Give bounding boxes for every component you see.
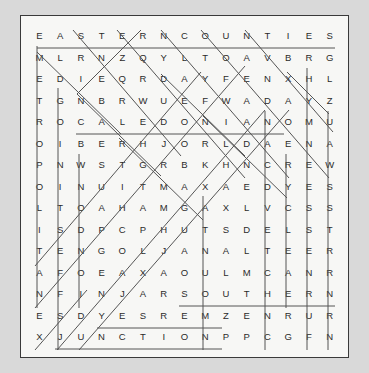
grid-cell[interactable]: N: [70, 90, 91, 112]
grid-cell[interactable]: E: [50, 240, 71, 262]
grid-cell[interactable]: S: [70, 25, 91, 47]
grid-cell[interactable]: S: [216, 219, 237, 241]
grid-cell[interactable]: E: [91, 262, 112, 284]
grid-cell[interactable]: U: [153, 90, 174, 112]
grid-cell[interactable]: N: [70, 240, 91, 262]
grid-cell[interactable]: L: [133, 240, 154, 262]
grid-cell[interactable]: S: [299, 197, 320, 219]
grid-cell[interactable]: H: [112, 197, 133, 219]
grid-cell[interactable]: E: [299, 240, 320, 262]
grid-cell[interactable]: W: [216, 90, 237, 112]
grid-cell[interactable]: S: [50, 305, 71, 327]
grid-cell[interactable]: I: [153, 326, 174, 348]
grid-cell[interactable]: M: [29, 47, 50, 69]
grid-cell[interactable]: N: [236, 154, 257, 176]
grid-cell[interactable]: R: [133, 25, 154, 47]
grid-cell[interactable]: F: [195, 90, 216, 112]
grid-cell[interactable]: E: [112, 305, 133, 327]
grid-cell[interactable]: C: [257, 262, 278, 284]
grid-cell[interactable]: N: [91, 326, 112, 348]
grid-cell[interactable]: E: [257, 219, 278, 241]
grid-cell[interactable]: W: [319, 154, 340, 176]
grid-cell[interactable]: L: [112, 111, 133, 133]
grid-cell[interactable]: G: [319, 47, 340, 69]
grid-cell[interactable]: R: [278, 305, 299, 327]
grid-cell[interactable]: A: [91, 197, 112, 219]
grid-cell[interactable]: D: [236, 219, 257, 241]
grid-cell[interactable]: C: [70, 111, 91, 133]
grid-cell[interactable]: E: [299, 154, 320, 176]
grid-cell[interactable]: E: [299, 176, 320, 198]
grid-cell[interactable]: N: [299, 262, 320, 284]
grid-cell[interactable]: N: [299, 133, 320, 155]
grid-cell[interactable]: R: [29, 111, 50, 133]
grid-cell[interactable]: T: [29, 240, 50, 262]
grid-cell[interactable]: C: [278, 197, 299, 219]
grid-cell[interactable]: H: [133, 133, 154, 155]
grid-cell[interactable]: O: [195, 283, 216, 305]
grid-cell[interactable]: E: [29, 305, 50, 327]
grid-cell[interactable]: I: [50, 176, 71, 198]
grid-cell[interactable]: R: [70, 47, 91, 69]
grid-cell[interactable]: T: [91, 25, 112, 47]
grid-cell[interactable]: J: [153, 240, 174, 262]
grid-cell[interactable]: C: [174, 25, 195, 47]
grid-cell[interactable]: G: [50, 90, 71, 112]
grid-cell[interactable]: L: [29, 197, 50, 219]
grid-cell[interactable]: Q: [112, 68, 133, 90]
grid-cell[interactable]: Y: [153, 47, 174, 69]
grid-cell[interactable]: M: [236, 262, 257, 284]
grid-cell[interactable]: I: [70, 283, 91, 305]
grid-cell[interactable]: R: [299, 47, 320, 69]
grid-cell[interactable]: A: [236, 90, 257, 112]
grid-cell[interactable]: O: [112, 240, 133, 262]
grid-cell[interactable]: N: [319, 283, 340, 305]
grid-cell[interactable]: Z: [319, 90, 340, 112]
grid-cell[interactable]: E: [299, 25, 320, 47]
grid-cell[interactable]: B: [91, 90, 112, 112]
grid-cell[interactable]: T: [195, 47, 216, 69]
grid-cell[interactable]: H: [299, 68, 320, 90]
grid-cell[interactable]: A: [133, 197, 154, 219]
grid-cell[interactable]: E: [236, 305, 257, 327]
grid-cell[interactable]: A: [174, 176, 195, 198]
grid-cell[interactable]: I: [70, 68, 91, 90]
grid-cell[interactable]: T: [133, 326, 154, 348]
grid-cell[interactable]: R: [112, 90, 133, 112]
grid-cell[interactable]: D: [257, 90, 278, 112]
grid-cell[interactable]: H: [153, 219, 174, 241]
grid-cell[interactable]: A: [91, 111, 112, 133]
grid-cell[interactable]: X: [278, 68, 299, 90]
grid-cell[interactable]: B: [278, 47, 299, 69]
grid-cell[interactable]: D: [70, 305, 91, 327]
grid-cell[interactable]: M: [153, 176, 174, 198]
grid-cell[interactable]: G: [91, 240, 112, 262]
grid-cell[interactable]: I: [50, 133, 71, 155]
grid-cell[interactable]: R: [278, 154, 299, 176]
grid-cell[interactable]: P: [236, 326, 257, 348]
grid-cell[interactable]: J: [50, 326, 71, 348]
grid-cell[interactable]: S: [174, 283, 195, 305]
grid-cell[interactable]: L: [216, 262, 237, 284]
grid-cell[interactable]: U: [91, 176, 112, 198]
letter-grid[interactable]: EASTERNCOUNTIESMLRNZQYLTOAVBRGEDIEQRDAYF…: [29, 25, 340, 348]
grid-cell[interactable]: D: [50, 68, 71, 90]
grid-cell[interactable]: L: [236, 240, 257, 262]
grid-cell[interactable]: U: [195, 262, 216, 284]
grid-cell[interactable]: A: [278, 262, 299, 284]
grid-cell[interactable]: O: [50, 111, 71, 133]
grid-cell[interactable]: N: [70, 176, 91, 198]
grid-cell[interactable]: N: [257, 111, 278, 133]
grid-cell[interactable]: R: [319, 262, 340, 284]
grid-cell[interactable]: R: [153, 154, 174, 176]
grid-cell[interactable]: R: [319, 305, 340, 327]
grid-cell[interactable]: P: [29, 154, 50, 176]
grid-cell[interactable]: T: [50, 197, 71, 219]
grid-cell[interactable]: L: [216, 133, 237, 155]
grid-cell[interactable]: O: [195, 25, 216, 47]
grid-cell[interactable]: Z: [112, 47, 133, 69]
grid-cell[interactable]: Y: [195, 68, 216, 90]
grid-cell[interactable]: E: [91, 133, 112, 155]
grid-cell[interactable]: S: [91, 154, 112, 176]
grid-cell[interactable]: N: [50, 154, 71, 176]
